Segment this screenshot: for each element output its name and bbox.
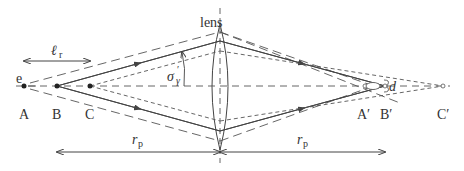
point-C-prime (441, 84, 445, 88)
label-l-r: ℓ (51, 43, 57, 58)
label-C: C (85, 107, 94, 122)
point-B (55, 84, 60, 89)
label-lens: lens (200, 15, 223, 30)
label-A-prime: A′ (357, 107, 370, 122)
lens-diagram: lens e A B C A′ B′ C′ ℓ r σ ′ γ d r p r … (0, 0, 464, 171)
label-A: A (19, 107, 30, 122)
sigma-angle-arc (182, 52, 185, 86)
point-A (22, 84, 27, 89)
label-l-r-sub: r (59, 49, 63, 60)
label-r-p-left-sub: p (138, 138, 143, 149)
rays-from-A (28, 32, 400, 141)
label-sigma-sup: ′ (177, 64, 179, 75)
label-d: d (389, 79, 397, 94)
label-sigma-sub: γ (176, 75, 181, 86)
point-C (88, 84, 93, 89)
blur-disk-d (366, 83, 380, 90)
label-r-p-right-sub: p (303, 138, 308, 149)
label-C-prime: C′ (437, 107, 449, 122)
label-e: e (16, 71, 22, 86)
label-B: B (52, 107, 61, 122)
label-B-prime: B′ (380, 107, 392, 122)
label-sigma: σ (167, 69, 175, 84)
point-B-prime (383, 84, 387, 88)
